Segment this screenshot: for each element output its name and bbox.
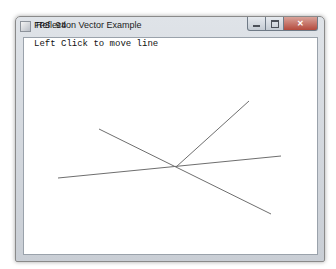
scene-lines	[0, 0, 336, 269]
surface-line	[58, 156, 281, 178]
reflected-line	[176, 101, 249, 167]
